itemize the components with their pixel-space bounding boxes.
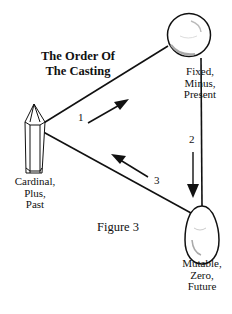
sphere-icon xyxy=(168,14,211,57)
egg-icon xyxy=(185,206,219,264)
arrow-step-3 xyxy=(111,154,148,177)
title-line-2: The Casting xyxy=(38,64,118,79)
title-line-1: The Order Of xyxy=(38,49,118,64)
label-egg: Mutable, Zero, Future xyxy=(175,258,229,293)
step-label-1: 1 xyxy=(78,111,84,123)
arrow-step-1 xyxy=(88,99,129,123)
step-label-2: 2 xyxy=(189,133,195,145)
step-label-3: 3 xyxy=(154,174,160,186)
figure-caption: Figure 3 xyxy=(97,220,139,235)
label-sphere: Fixed, Minus, Present xyxy=(175,66,225,101)
diagram-title: The Order Of The Casting xyxy=(38,49,118,79)
label-crystal: Cardinal, Plus, Past xyxy=(10,176,60,211)
arrow-step-2 xyxy=(187,152,199,198)
crystal-icon xyxy=(25,104,45,173)
